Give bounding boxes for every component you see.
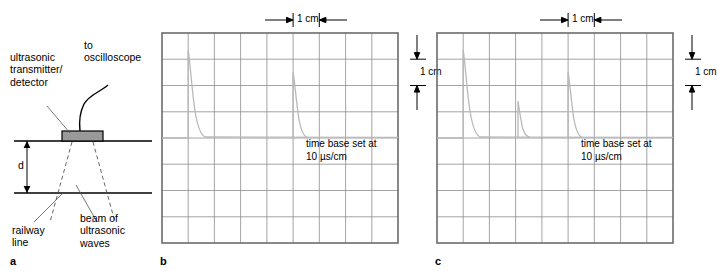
label-beam-of-ultrasonic-waves: beam of ultrasonic waves [80, 212, 144, 249]
scope-c-trace [437, 50, 673, 138]
depth-arrow-up [24, 141, 31, 148]
oscilloscope-cable [80, 85, 108, 131]
scope-c-timebase-text: time base set at 10 µs/cm [581, 138, 652, 162]
label-depth-d: d [18, 159, 24, 171]
scope-c-vertical-dimension-label: 1 cm [695, 66, 717, 77]
beam-edge-right [93, 142, 115, 222]
scope-c-echo-pulse [568, 72, 582, 138]
leader-line-railway [34, 194, 62, 222]
depth-arrow-down [24, 186, 31, 193]
scope-b-echo-pulse [293, 72, 307, 138]
label-railway-line: railway line [12, 224, 72, 249]
scope-b-horizontal-dimension-label: 1 cm [297, 13, 319, 24]
panel-b-oscilloscope [155, 0, 435, 271]
leader-line-transducer [47, 106, 70, 133]
scope-c-timebase-note: time base set at 10 µs/cm [581, 138, 652, 163]
scope-b-trace [162, 50, 398, 138]
panel-letter-c: c [435, 255, 441, 267]
panel-letter-b: b [160, 255, 167, 267]
scope-c-horizontal-dimension-label: 1 cm [572, 13, 594, 24]
panel-letter-a: a [10, 255, 16, 267]
scope-c-middle-pulse [518, 101, 530, 138]
label-ultrasonic-transducer: ultrasonic transmitter/ detector [10, 51, 82, 88]
panel-c-oscilloscope [430, 0, 711, 271]
ultrasonic-transducer-block [62, 131, 103, 141]
beam-edge-left [50, 142, 72, 222]
scope-b-timebase-note: time base set at 10 µs/cm [306, 138, 377, 163]
label-to-oscilloscope: to oscilloscope [84, 39, 154, 64]
scope-b-timebase-text: time base set at 10 µs/cm [306, 138, 377, 162]
